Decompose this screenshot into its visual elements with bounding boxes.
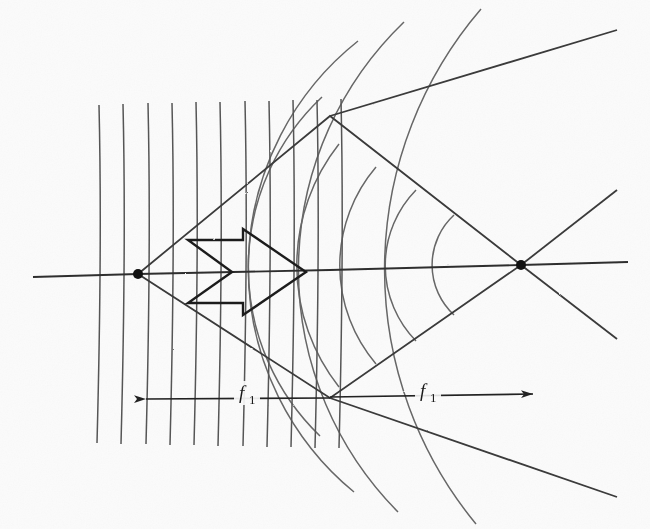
right-label-backing: [415, 379, 441, 403]
optics-figure: f 1 f 1: [0, 0, 650, 529]
left-focal-label: f 1: [234, 381, 260, 407]
left-focal-label-subscript: 1: [249, 392, 256, 407]
left-label-backing: [234, 381, 260, 405]
right-focal-point: [516, 260, 526, 270]
left-focal-point: [133, 269, 143, 279]
right-focal-label-subscript: 1: [430, 390, 437, 405]
figure-canvas: f 1 f 1: [0, 0, 650, 529]
right-focal-label: f 1: [415, 379, 441, 405]
